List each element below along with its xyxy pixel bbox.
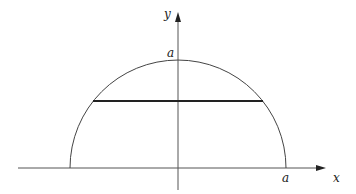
y-intercept-label: a (167, 46, 174, 60)
diagram-canvas: y x a a (0, 0, 356, 194)
y-axis-arrow-icon (175, 12, 181, 22)
x-axis-arrow-icon (316, 165, 326, 171)
y-axis-label: y (163, 7, 171, 21)
x-intercept-label: a (282, 171, 289, 185)
x-axis-label: x (333, 171, 340, 185)
